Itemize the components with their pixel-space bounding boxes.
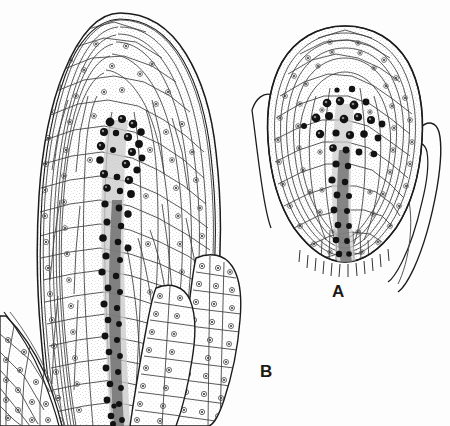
figure-root: A B bbox=[0, 0, 450, 426]
panel-label-a: A bbox=[332, 283, 345, 300]
meristem-illustration-canvas bbox=[0, 0, 450, 426]
panel-label-b: B bbox=[260, 363, 273, 380]
